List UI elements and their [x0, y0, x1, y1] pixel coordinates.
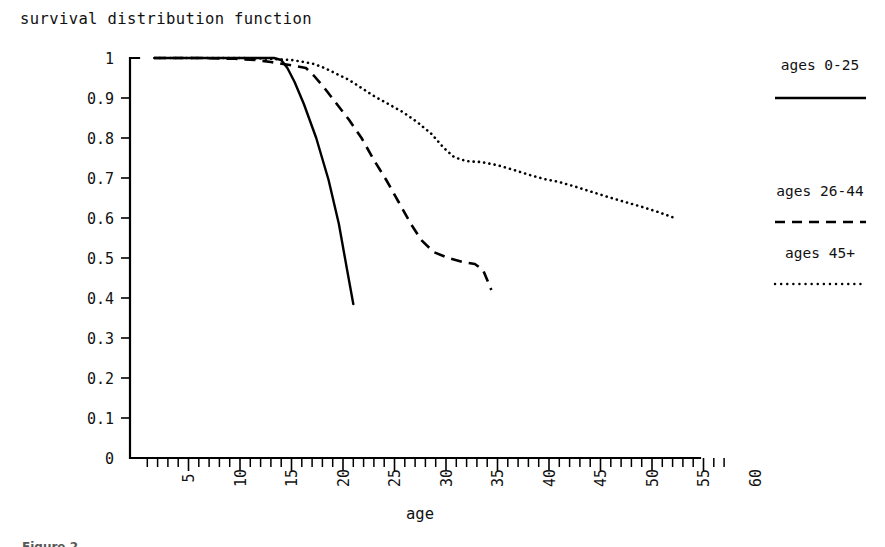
y-axis: 00.10.20.30.40.50.60.70.80.91 [87, 50, 130, 468]
y-tick-label: 0.6 [87, 210, 114, 228]
axis-frame [130, 58, 700, 458]
x-tick-label: 55 [695, 469, 713, 487]
x-tick-label: 15 [283, 469, 301, 487]
series-group [155, 58, 673, 304]
x-tick-label: 45 [592, 469, 610, 487]
x-tick-label: 35 [489, 469, 507, 487]
y-tick-label: 0.2 [87, 370, 114, 388]
figure-caption: Figure 2 [22, 540, 78, 547]
survival-distribution-chart: survival distribution function 00.10.20.… [0, 0, 885, 547]
x-tick-label: 10 [232, 469, 250, 487]
series-line-3 [155, 58, 673, 217]
legend-label-1: ages 0-25 [781, 57, 860, 73]
x-tick-label: 60 [747, 469, 765, 487]
chart-legend: ages 0-25ages 26-44ages 45+ [775, 57, 866, 284]
x-tick-label: 50 [644, 469, 662, 487]
chart-title: survival distribution function [20, 10, 312, 28]
series-line-1 [155, 58, 354, 304]
legend-label-3: ages 45+ [785, 245, 855, 261]
x-tick-label: 5 [180, 473, 198, 482]
y-tick-label: 0.7 [87, 170, 114, 188]
x-axis-title: age [406, 505, 434, 523]
y-tick-label: 0.9 [87, 90, 114, 108]
x-tick-label: 30 [438, 469, 456, 487]
y-tick-label: 0.3 [87, 330, 114, 348]
y-tick-label: 0.4 [87, 290, 114, 308]
series-line-2 [155, 58, 492, 290]
x-tick-label: 25 [386, 469, 404, 487]
y-tick-label: 0 [105, 450, 114, 468]
y-tick-label: 0.8 [87, 130, 114, 148]
x-tick-label: 20 [335, 469, 353, 487]
legend-label-2: ages 26-44 [776, 183, 864, 199]
y-tick-label: 1 [105, 50, 114, 68]
y-tick-label: 0.1 [87, 410, 114, 428]
figure-root: survival distribution function 00.10.20.… [0, 0, 885, 547]
y-tick-label: 0.5 [87, 250, 114, 268]
x-axis: 51015202530354045505560 [147, 458, 764, 487]
x-tick-label: 40 [541, 469, 559, 487]
